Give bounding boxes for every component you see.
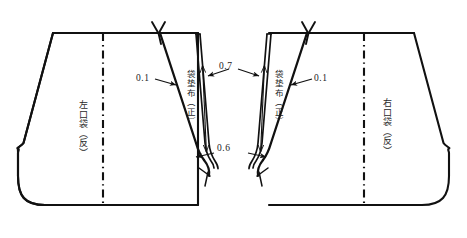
- facing-label-right: 袋垫布（正）: [272, 70, 282, 126]
- pattern-drawing-canvas: [0, 0, 467, 238]
- right-facing-fold-edge: [249, 34, 267, 169]
- dimension-facing-width: 0.7: [219, 62, 233, 72]
- pattern-diagram: 0.1 0.7 0.6 0.1 左口袋（反） 右口袋（反） 袋垫布（正） 袋垫布…: [0, 0, 467, 238]
- facing-label-left: 袋垫布（正）: [184, 70, 194, 126]
- piece-label-right-pocket: 右口袋（反）: [382, 98, 393, 155]
- right-07-leader: [238, 69, 259, 76]
- left-pocket-body: [18, 33, 199, 205]
- dimension-bottom-allowance: 0.6: [217, 144, 231, 154]
- right-pocket-right-contour: [269, 33, 449, 205]
- piece-label-left-pocket: 左口袋（反）: [78, 100, 89, 157]
- dimension-right-seam-allowance: 0.1: [314, 74, 328, 84]
- right-01-leader: [291, 79, 312, 85]
- bottom-06-leader-right: [248, 153, 266, 157]
- left-pocket-outline: [18, 33, 199, 205]
- dimension-left-seam-allowance: 0.1: [136, 74, 150, 84]
- left-facing-fold-edge: [200, 34, 218, 169]
- right-pocket-outline: [269, 33, 449, 205]
